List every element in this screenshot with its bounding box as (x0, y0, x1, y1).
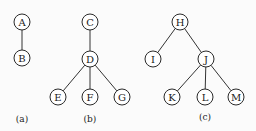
node-label: B (18, 53, 25, 64)
node-m: M (228, 89, 244, 105)
node-d: D (82, 51, 98, 67)
diagram-canvas: ABCDEFGHIJKLM (a)(b)(c) (0, 0, 256, 131)
edge-j-m (211, 65, 231, 90)
node-k: K (164, 89, 180, 105)
node-b: B (14, 50, 30, 66)
node-f: F (82, 89, 98, 105)
nodes-layer: ABCDEFGHIJKLM (14, 14, 244, 105)
node-i: I (145, 51, 161, 67)
subfigure-caption: (c) (199, 112, 211, 122)
edge-h-j (185, 29, 202, 53)
subfigure-caption: (b) (84, 114, 97, 124)
node-e: E (50, 89, 66, 105)
node-c: C (82, 14, 98, 30)
node-label: D (86, 54, 94, 65)
edge-d-g (95, 65, 117, 91)
subfigure-caption: (a) (16, 114, 28, 124)
node-label: L (202, 92, 209, 103)
node-g: G (114, 89, 130, 105)
node-label: H (176, 17, 185, 28)
node-label: G (118, 92, 126, 103)
node-label: M (231, 92, 241, 103)
node-label: K (168, 92, 176, 103)
edge-j-k (177, 65, 200, 91)
node-label: I (151, 54, 155, 65)
node-label: E (54, 92, 61, 103)
captions-layer: (a)(b)(c) (16, 112, 211, 124)
tree-diagram-figure: ABCDEFGHIJKLM (a)(b)(c) (0, 0, 256, 131)
node-label: J (203, 54, 208, 65)
node-label: A (17, 17, 26, 28)
node-l: L (197, 89, 213, 105)
node-label: F (87, 92, 94, 103)
node-j: J (198, 51, 214, 67)
node-h: H (172, 14, 188, 30)
edge-h-i (158, 28, 176, 52)
node-label: C (86, 17, 94, 28)
edge-j-l (205, 67, 206, 89)
edge-d-e (63, 65, 85, 91)
node-a: A (14, 14, 30, 30)
